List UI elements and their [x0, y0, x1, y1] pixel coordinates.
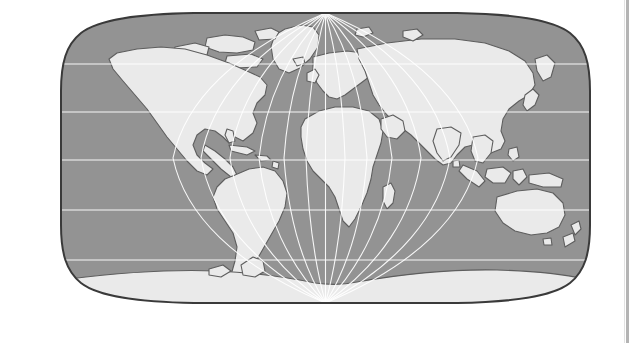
- page-divider-highlight: [624, 0, 625, 343]
- landmass-arctic-islands-4: [255, 28, 279, 40]
- world-map-figure: [57, 11, 594, 305]
- landmass-caribbean-lesser: [272, 161, 279, 169]
- landmass-tasmania: [543, 238, 552, 245]
- page-divider-rule: [626, 0, 629, 343]
- world-map-svg: [57, 11, 594, 305]
- page-canvas: [0, 0, 635, 343]
- landmass-sri-lanka: [453, 160, 460, 167]
